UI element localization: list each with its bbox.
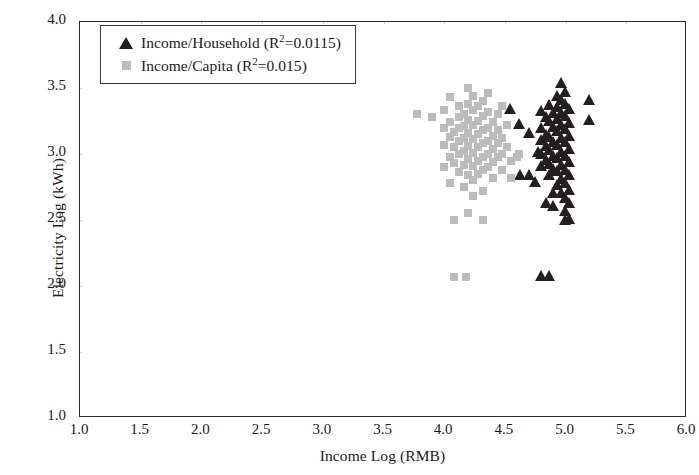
data-point [469, 92, 477, 100]
data-point [464, 84, 472, 92]
data-point [543, 270, 555, 281]
data-point [503, 143, 511, 151]
y-tick-label: 1.5 [14, 341, 66, 358]
data-point [507, 174, 515, 182]
data-point [494, 110, 502, 118]
legend-item-income-household: Income/Household (R2=0.0115) [111, 31, 341, 54]
data-point [440, 106, 448, 114]
scatter-chart-figure: Electricity Log (kWh) Income Log (RMB) I… [0, 0, 699, 475]
data-point [563, 156, 575, 167]
data-point [563, 169, 575, 180]
data-point [479, 216, 487, 224]
data-point [563, 143, 575, 154]
x-axis-label: Income Log (RMB) [79, 447, 686, 465]
data-point [440, 124, 448, 132]
y-tick-label: 3.5 [14, 77, 66, 94]
data-point [547, 187, 559, 198]
x-tick-label: 5.5 [595, 421, 655, 438]
data-point [469, 192, 477, 200]
data-point [515, 150, 523, 158]
x-tick-label: 1.5 [110, 421, 170, 438]
data-point [563, 197, 575, 208]
data-point [450, 216, 458, 224]
x-tick-label: 3.5 [353, 421, 413, 438]
square-marker-icon [111, 61, 141, 70]
data-point [583, 94, 595, 105]
data-point [563, 130, 575, 141]
data-point [450, 273, 458, 281]
data-point [540, 197, 552, 208]
y-axis-label: Electricity Log (kWh) [49, 78, 67, 378]
data-point [450, 159, 458, 167]
data-point [559, 86, 571, 97]
data-point [440, 141, 448, 149]
data-point [446, 93, 454, 101]
y-tick-label: 4.0 [14, 11, 66, 28]
data-point [529, 176, 541, 187]
y-tick-label: 3.0 [14, 143, 66, 160]
data-point [413, 110, 421, 118]
x-tick-label: 2.5 [231, 421, 291, 438]
data-point [484, 89, 492, 97]
data-point [563, 213, 575, 224]
data-point [446, 179, 454, 187]
data-point [479, 97, 487, 105]
data-point [498, 134, 506, 142]
legend-label-income-household: Income/Household (R2=0.0115) [141, 33, 341, 52]
legend-item-income-capita: Income/Capita (R2=0.015) [111, 54, 341, 77]
x-tick-label: 5.0 [535, 421, 595, 438]
y-tick-label: 2.5 [14, 209, 66, 226]
data-point [494, 126, 502, 134]
data-point [479, 187, 487, 195]
triangle-marker-icon [111, 37, 141, 49]
x-tick-label: 3.0 [292, 421, 352, 438]
x-tick-label: 4.0 [413, 421, 473, 438]
data-point [464, 209, 472, 217]
data-point [583, 114, 595, 125]
x-tick-label: 2.0 [170, 421, 230, 438]
data-point [484, 108, 492, 116]
data-point [455, 168, 463, 176]
legend-label-income-capita: Income/Capita (R2=0.015) [141, 56, 307, 75]
data-point [460, 183, 468, 191]
data-point [563, 184, 575, 195]
y-tick-label: 2.0 [14, 275, 66, 292]
data-point [455, 102, 463, 110]
data-point [489, 118, 497, 126]
data-point [440, 163, 448, 171]
x-tick-label: 4.5 [474, 421, 534, 438]
data-point [563, 103, 575, 114]
data-point [489, 174, 497, 182]
data-point [428, 113, 436, 121]
data-point [523, 127, 535, 138]
data-point [498, 166, 506, 174]
data-point [563, 117, 575, 128]
x-tick-label: 6.0 [656, 421, 699, 438]
data-point [462, 273, 470, 281]
y-tick-label: 1.0 [14, 407, 66, 424]
data-point [498, 102, 506, 110]
data-point [503, 121, 511, 129]
legend: Income/Household (R2=0.0115) Income/Capi… [100, 25, 356, 84]
